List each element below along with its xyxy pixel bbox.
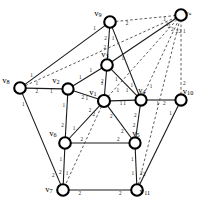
node-v5[interactable]	[129, 137, 140, 148]
node-label-v6: v6	[49, 128, 56, 138]
edge-weight-v2-v1-near: 2	[81, 94, 84, 100]
node-label-v10: v10	[183, 86, 193, 96]
edge-v1-v5	[108, 106, 132, 139]
node-label-vstar: v*	[184, 8, 191, 18]
node-label-v2: v2	[52, 75, 59, 85]
node-label-v5: v5	[132, 128, 139, 138]
edge-v8-v7	[22, 93, 60, 184]
node-label-v1: v1	[89, 87, 96, 97]
edge-weight-v9-v4-near: 1	[112, 35, 115, 41]
node-label-v7: v7	[45, 184, 52, 194]
edge-weight-v10-vstar-near: 2	[183, 80, 186, 86]
edge-weight-v6-v7-far: 2	[59, 169, 62, 175]
node-v3[interactable]	[101, 59, 113, 71]
edge-v3-v4	[111, 69, 137, 96]
edge-v5-v11	[135, 149, 137, 185]
edge-weight-v1-vstar-near: 1	[117, 87, 120, 93]
graph-figure: 1122112111211211211112211211212221121222…	[0, 0, 206, 208]
node-v8[interactable]	[14, 82, 26, 94]
edge-weight-v8-vstar-near: 1	[35, 80, 38, 86]
edge-weight-v5-v6-near: 2	[117, 136, 120, 142]
edge-weight-v8-v2-far: 1	[50, 88, 53, 94]
edge-weight-v1-v6-near: 2	[89, 107, 92, 113]
edge-weight-v4-v5-near: 2	[134, 112, 137, 118]
edge-weight-v3-v4-near: 1	[115, 76, 118, 82]
edge-weight-v3-vstar-near: 1	[122, 55, 125, 61]
edge-weight-v1-v7-far: 1	[66, 170, 69, 176]
edge-weight-v3-v2-near: 1	[90, 67, 93, 73]
edge-weight-v9-v4-far: 1	[130, 82, 133, 88]
edge-v3-v2	[73, 68, 102, 86]
node-label-v4: v4	[138, 85, 145, 95]
edge-weight-v2-v6-far: 2	[61, 122, 64, 128]
node-v9[interactable]	[104, 16, 116, 28]
edge-weight-v8-v7-far: 2	[52, 172, 55, 178]
edge-weight-v5-v11-near: 1	[131, 156, 134, 162]
edge-weight-v1-v5-far: 2	[121, 128, 124, 134]
edge-weight-v11-vstar-near: 2	[143, 171, 146, 177]
edge-weight-v10-v11-near: 1	[169, 110, 172, 116]
edge-weight-v4-v10-near: 1	[156, 100, 159, 106]
edge-weight-v7-v11-near: 2	[79, 190, 82, 196]
graph-canvas: 1122112111211211211112211211212221121222…	[0, 0, 206, 208]
edge-weight-v1-v5-near: 2	[110, 113, 113, 119]
edge-weight-v2-v6-near: 1	[62, 102, 65, 108]
edge-weight-v8-v2-near: 2	[35, 88, 38, 94]
edge-weight-v8-v7-near: 1	[22, 101, 25, 107]
edge-weight-v6-v7-near: 1	[60, 156, 63, 162]
edge-weight-v9-v8-near: 1	[93, 25, 96, 31]
edge-v2-v6	[65, 95, 67, 138]
edge-weight-v5-v11-far: 1	[132, 170, 135, 176]
edge-weight-v3-v2-far: 1	[79, 74, 82, 80]
node-v1[interactable]	[98, 95, 110, 107]
node-layer	[14, 9, 187, 196]
edge-weight-v9-v3-near: 2	[104, 35, 107, 41]
edge-weight-v1-v7-near: 2	[93, 111, 96, 117]
edge-weight-v1-vstar-far: 2	[171, 26, 174, 32]
edge-weight-v2-v1-far: 1	[86, 95, 89, 101]
edge-weight-v4-v10-far: 2	[163, 100, 166, 106]
edge-weight-v9-v8-far: 1	[30, 72, 33, 78]
edge-weight-v11-vstar-far: 2	[179, 28, 182, 34]
edge-v8-v2	[26, 88, 63, 89]
node-label-v11: v11	[140, 186, 150, 196]
node-label-v8: v8	[2, 75, 9, 85]
edge-v1-v6	[69, 105, 100, 138]
edge-weight-v7-v11-far: 2	[119, 190, 122, 196]
edge-weight-v5-v6-far: 2	[81, 136, 84, 142]
node-v10[interactable]	[175, 94, 186, 105]
edge-v3-v1	[104, 71, 106, 95]
node-v7[interactable]	[57, 184, 69, 196]
edge-weight-v9-vstar-near: 2	[126, 20, 129, 26]
node-v4[interactable]	[135, 94, 146, 105]
node-v2[interactable]	[62, 83, 73, 94]
edge-weight-v1-v6-far: 1	[73, 125, 76, 131]
edge-weight-v10-vstar-far: 1	[183, 28, 186, 34]
edge-weight-v1-v4-far: 1	[123, 100, 126, 106]
edge-weight-v3-v1-far: 1	[101, 80, 104, 86]
edge-weight-v4-vstar-near: 1	[150, 83, 153, 89]
edge-v6-v7	[63, 149, 65, 184]
node-v6[interactable]	[59, 137, 71, 149]
edge-weight-v3-v4-far: 1	[126, 87, 129, 93]
node-label-v9: v9	[94, 8, 101, 18]
